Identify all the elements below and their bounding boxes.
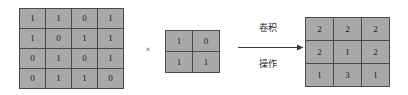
table-row: 2 1 2 xyxy=(306,41,390,64)
table-row: 2 2 2 xyxy=(306,18,390,41)
kernel-matrix: 1 0 1 1 xyxy=(165,30,220,73)
input-cell-r1c1: 0 xyxy=(46,29,72,49)
output-cell-r0c1: 2 xyxy=(334,18,362,41)
multiply-icon: × xyxy=(142,43,154,55)
input-cell-r0c3: 1 xyxy=(98,9,124,29)
table-row: 1 0 xyxy=(166,31,220,52)
input-matrix: 1 1 0 1 1 0 1 1 0 1 0 1 0 1 1 0 xyxy=(19,8,124,89)
table-row: 1 1 xyxy=(166,52,220,73)
input-cell-r0c0: 1 xyxy=(20,9,46,29)
output-cell-r2c1: 3 xyxy=(334,64,362,87)
input-cell-r2c3: 1 xyxy=(98,49,124,69)
input-cell-r0c1: 1 xyxy=(46,9,72,29)
output-matrix: 2 2 2 2 1 2 1 3 1 xyxy=(305,17,390,87)
table-row: 1 1 0 1 xyxy=(20,9,124,29)
kernel-cell-r0c1: 0 xyxy=(193,31,220,52)
input-cell-r2c1: 1 xyxy=(46,49,72,69)
kernel-cell-r0c0: 1 xyxy=(166,31,193,52)
input-cell-r2c2: 0 xyxy=(72,49,98,69)
input-cell-r1c0: 1 xyxy=(20,29,46,49)
input-cell-r3c1: 1 xyxy=(46,69,72,89)
table-row: 1 3 1 xyxy=(306,64,390,87)
input-cell-r1c2: 1 xyxy=(72,29,98,49)
output-cell-r1c0: 2 xyxy=(306,41,334,64)
arrow-label-bottom: 操作 xyxy=(238,58,298,70)
output-cell-r1c2: 2 xyxy=(362,41,390,64)
output-cell-r0c0: 2 xyxy=(306,18,334,41)
input-cell-r3c2: 1 xyxy=(72,69,98,89)
kernel-cell-r1c0: 1 xyxy=(166,52,193,73)
table-row: 0 1 1 0 xyxy=(20,69,124,89)
table-row: 1 0 1 1 xyxy=(20,29,124,49)
arrow-label-top: 卷积 xyxy=(238,22,298,34)
convolution-diagram: 1 1 0 1 1 0 1 1 0 1 0 1 0 1 1 0 xyxy=(0,0,408,95)
input-cell-r3c3: 0 xyxy=(98,69,124,89)
operation-arrow-group: 卷积 操作 xyxy=(238,16,304,78)
input-cell-r3c0: 0 xyxy=(20,69,46,89)
output-cell-r0c2: 2 xyxy=(362,18,390,41)
output-cell-r1c1: 1 xyxy=(334,41,362,64)
right-arrow-icon xyxy=(238,44,304,51)
input-cell-r1c3: 1 xyxy=(98,29,124,49)
input-cell-r2c0: 0 xyxy=(20,49,46,69)
table-row: 0 1 0 1 xyxy=(20,49,124,69)
output-cell-r2c2: 1 xyxy=(362,64,390,87)
kernel-cell-r1c1: 1 xyxy=(193,52,220,73)
input-cell-r0c2: 0 xyxy=(72,9,98,29)
output-cell-r2c0: 1 xyxy=(306,64,334,87)
